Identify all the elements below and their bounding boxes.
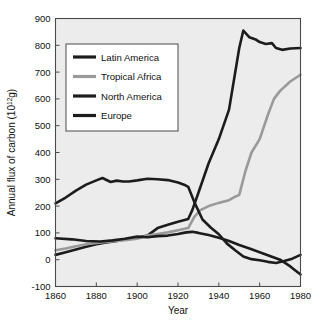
y-tick-label: 600 [35, 93, 51, 104]
x-tick-label: 1960 [249, 290, 270, 301]
legend-label-north-america[interactable]: North America [101, 91, 162, 102]
x-tick-label: 1940 [208, 290, 229, 301]
y-tick-label: 800 [35, 40, 51, 51]
y-tick-label: 900 [35, 13, 51, 24]
y-tick-label: 700 [35, 67, 51, 78]
x-tick-label: 1900 [127, 290, 148, 301]
legend-label-latin-america[interactable]: Latin America [101, 52, 160, 63]
x-tick-label: 1880 [86, 290, 107, 301]
x-tick-label: 1920 [167, 290, 188, 301]
y-tick-label: 300 [35, 174, 51, 185]
legend-label-tropical-africa[interactable]: Tropical Africa [101, 71, 162, 82]
x-tick-label: 1860 [45, 290, 66, 301]
chart-legend[interactable]: Latin AmericaTropical AfricaNorth Americ… [66, 44, 178, 131]
x-tick-label: 1980 [290, 290, 311, 301]
y-axis-title: Annual flux of carbon (1012g) [6, 89, 17, 216]
y-tick-label: 400 [35, 147, 51, 158]
y-tick-label: 500 [35, 120, 51, 131]
line-chart: -100010020030040050060070080090018601880… [0, 0, 315, 333]
y-tick-label: 100 [35, 227, 51, 238]
legend-label-europe[interactable]: Europe [101, 110, 132, 121]
y-tick-label: 0 [45, 254, 50, 265]
x-axis-title: Year [168, 305, 189, 316]
y-tick-label: 200 [35, 201, 51, 212]
chart-figure: -100010020030040050060070080090018601880… [0, 0, 315, 333]
